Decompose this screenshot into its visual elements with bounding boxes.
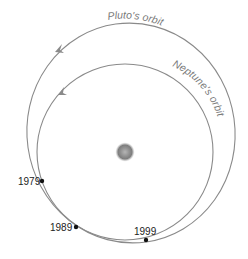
neptune-direction-arrow-icon	[58, 87, 67, 95]
pluto-orbit	[13, 10, 248, 257]
position-dot-1989	[74, 225, 78, 229]
year-label-1979: 1979	[18, 176, 41, 187]
year-label-1999: 1999	[134, 226, 157, 237]
pluto-orbit-label: Pluto's orbit	[107, 9, 167, 29]
position-dot-1999	[144, 238, 148, 242]
orbit-diagram: Pluto's orbit Neptune's orbit 1979 1989 …	[0, 0, 248, 259]
year-label-1989: 1989	[50, 222, 73, 233]
neptune-orbit-label: Neptune's orbit	[171, 57, 227, 119]
position-dot-1979	[40, 179, 44, 183]
sun-icon	[115, 142, 135, 162]
